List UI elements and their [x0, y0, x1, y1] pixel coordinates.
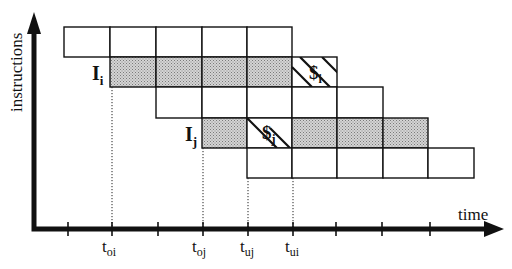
pipeline-stage-cell: [383, 148, 428, 178]
hatched-stall-cell: $i: [292, 57, 342, 87]
pipeline-stage-cell: [247, 27, 292, 57]
pipeline-stage-cell-shaded: [247, 57, 292, 87]
pipeline-stage-cell: [337, 148, 383, 178]
pipeline-stage-cell: [64, 27, 110, 57]
pipeline-stage-cell: [292, 148, 337, 178]
time-label-tuj: tuj: [240, 237, 254, 259]
pipeline-diagram: $i $j: [0, 0, 512, 269]
time-label-toj: toj: [192, 237, 206, 259]
pipeline-stage-cell-shaded: [383, 118, 428, 148]
instruction-label-ii: Ii: [92, 62, 104, 88]
instruction-row-4: [247, 148, 474, 178]
pipeline-stage-cell: [110, 27, 156, 57]
pipeline-stage-cell: [337, 87, 383, 118]
pipeline-stage-cell-shaded: [202, 57, 247, 87]
instruction-row-3: $j: [202, 118, 428, 148]
pipeline-stage-cell: [202, 87, 247, 118]
pipeline-stage-cell: [247, 87, 292, 118]
pipeline-stage-cell-shaded: [202, 118, 247, 148]
pipeline-stage-cell-shaded: [156, 57, 202, 87]
hatched-stall-cell: $j: [247, 118, 292, 148]
instruction-row-2: [156, 87, 383, 118]
pipeline-stage-cell-shaded: [110, 57, 156, 87]
x-axis-label: time: [458, 205, 488, 224]
instruction-row-1: $i: [110, 57, 342, 87]
time-label-tui: tui: [285, 237, 300, 259]
pipeline-stage-cell-shaded: [337, 118, 383, 148]
pipeline-stage-cell: [292, 87, 337, 118]
pipeline-stage-cell: [156, 87, 202, 118]
instruction-label-ij: Ij: [185, 123, 197, 149]
instruction-row-0: [64, 27, 292, 57]
pipeline-stage-cell: [202, 27, 247, 57]
y-axis-label: instructions: [7, 33, 26, 112]
pipeline-stage-cell: [247, 148, 292, 178]
time-label-toi: toi: [102, 237, 117, 259]
pipeline-stage-cell-shaded: [292, 118, 337, 148]
y-axis-arrow-icon: [27, 12, 41, 34]
pipeline-stage-cell: [428, 148, 474, 178]
pipeline-stage-cell: [156, 27, 202, 57]
